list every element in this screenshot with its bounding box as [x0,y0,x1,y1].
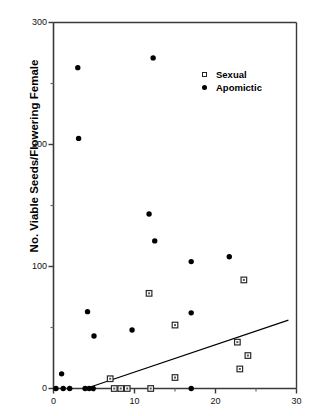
data-point-sexual-center [113,388,115,390]
data-point-sexual-center [150,388,152,390]
legend-item-apomictic: Apomictic [196,81,262,94]
data-point-sexual-center [239,368,241,370]
data-point-apomictic [67,386,72,391]
data-point-apomictic [150,55,155,60]
open-square-icon [196,72,212,77]
data-point-apomictic [129,327,134,332]
data-point-apomictic [227,254,232,259]
data-point-sexual-center [120,388,122,390]
data-point-apomictic [85,309,90,314]
x-tick-label: 10 [123,396,147,406]
y-tick-label: 200 [20,139,47,149]
data-point-apomictic [152,238,157,243]
data-point-apomictic [146,211,151,216]
data-point-sexual-center [243,279,245,281]
legend-label-apomictic: Apomictic [216,82,262,93]
data-point-sexual-center [109,378,111,380]
data-point-apomictic [76,136,81,141]
data-point-apomictic [53,386,58,391]
x-tick-label: 20 [204,396,228,406]
data-point-apomictic [61,386,66,391]
regression-trendline [86,320,289,388]
filled-circle-icon [196,85,212,90]
x-tick-label: 30 [285,396,309,406]
data-point-apomictic [90,386,95,391]
scatter-plot-figure: No. Viable Seeds/Flowering Female 010020… [0,0,318,416]
data-point-sexual-center [236,341,238,343]
legend-item-sexual: Sexual [196,68,262,81]
legend-label-sexual: Sexual [216,69,247,80]
data-point-apomictic [189,386,194,391]
data-point-apomictic [75,65,80,70]
data-point-apomictic [189,259,194,264]
data-point-sexual-center [126,388,128,390]
data-point-sexual-center [247,355,249,357]
data-point-apomictic [91,333,96,338]
y-tick-label: 300 [20,17,47,27]
x-tick-label: 0 [42,396,66,406]
data-point-sexual-center [174,377,176,379]
data-point-apomictic [59,371,64,376]
data-point-sexual-center [148,292,150,294]
y-tick-label: 0 [20,383,47,393]
data-point-sexual-center [174,324,176,326]
y-tick-label: 100 [20,261,47,271]
chart-legend: Sexual Apomictic [196,68,262,94]
data-point-apomictic [189,310,194,315]
plot-canvas [0,0,318,416]
